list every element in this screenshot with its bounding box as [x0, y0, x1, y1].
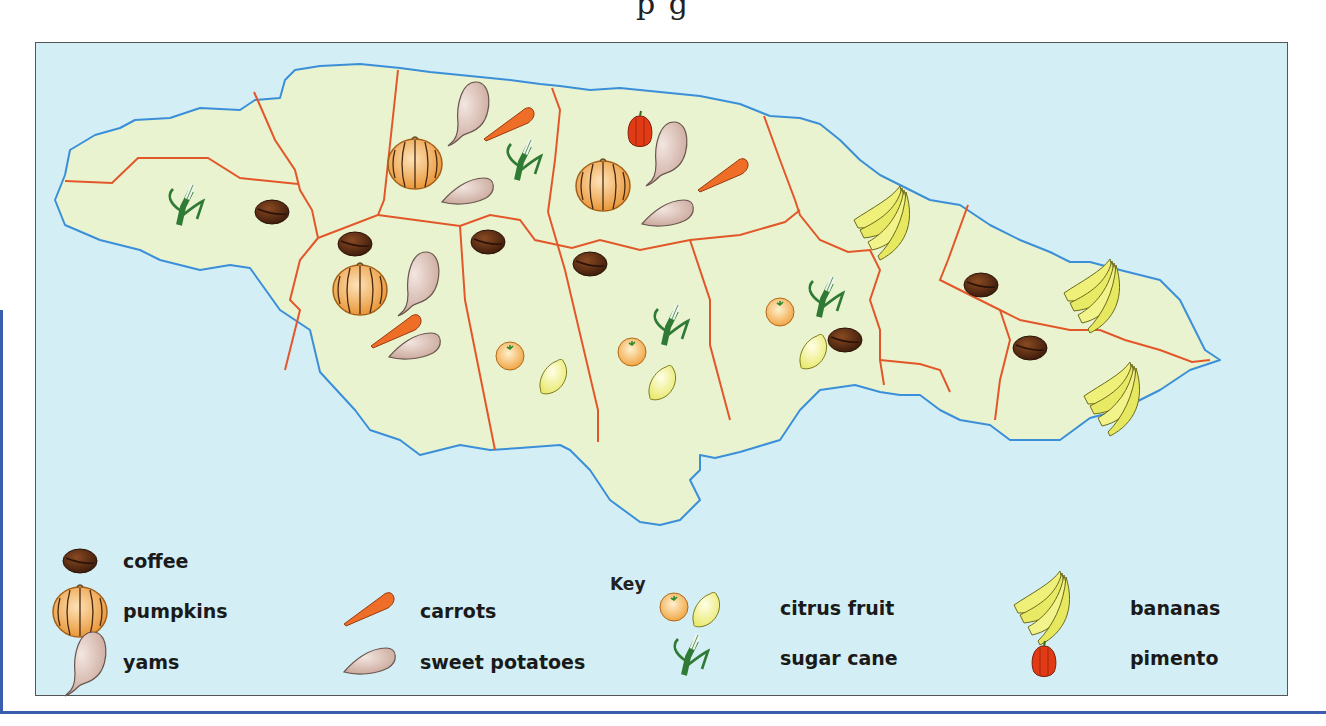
coffee-bean-icon — [63, 549, 97, 573]
pimento-icon — [1032, 641, 1056, 677]
citrus-orange-icon — [660, 593, 688, 621]
yam-icon — [65, 632, 106, 696]
key-item-citrus-fruit: citrus fruit — [780, 597, 894, 619]
key-item-pimento: pimento — [1130, 647, 1218, 669]
key-item-coffee: coffee — [123, 550, 188, 572]
page-edge-rule — [0, 310, 3, 711]
sugar-cane-icon — [675, 635, 708, 675]
sweet-potato-icon — [344, 648, 395, 674]
key-item-pumpkins: pumpkins — [123, 600, 228, 622]
carrot-icon — [344, 593, 394, 626]
citrus-lemon-icon — [693, 593, 720, 627]
banana-icon — [1014, 571, 1070, 645]
pumpkin-icon — [53, 585, 107, 637]
key-title: Key — [610, 574, 646, 594]
page-divider — [0, 711, 1326, 714]
key-item-sugar-cane: sugar cane — [780, 647, 898, 669]
key-item-carrots: carrots — [420, 600, 496, 622]
key-item-bananas: bananas — [1130, 597, 1220, 619]
key-item-sweet-potatoes: sweet potatoes — [420, 651, 585, 673]
key-icons — [53, 549, 1070, 696]
key-item-yams: yams — [123, 651, 179, 673]
